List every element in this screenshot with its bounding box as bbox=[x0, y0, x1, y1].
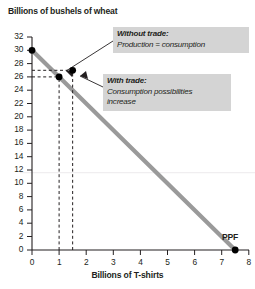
y-tick-label: 8 bbox=[5, 192, 23, 201]
y-tick-label: 16 bbox=[5, 138, 23, 147]
y-tick-label: 14 bbox=[5, 152, 23, 161]
y-tick-label: 26 bbox=[5, 72, 23, 81]
annotation-without-trade: Without trade: Production = consumption bbox=[113, 27, 249, 53]
annotation-with-trade-title: With trade: bbox=[107, 76, 227, 87]
dashed-guides bbox=[32, 70, 73, 250]
annotation-with-trade-body-line2: increase bbox=[107, 97, 227, 108]
y-axis-ticks bbox=[27, 37, 32, 250]
ppf-chart-figure: Billions of bushels of wheat bbox=[0, 0, 255, 289]
y-tick-label: 30 bbox=[5, 45, 23, 54]
plot-area: 32 30 28 26 24 22 20 18 16 14 12 10 8 6 … bbox=[0, 0, 255, 289]
x-axis-title: Billions of T-shirts bbox=[0, 270, 255, 280]
y-tick-label: 0 bbox=[5, 245, 23, 254]
point-ppf-x-intercept bbox=[232, 247, 239, 254]
point-ppf-y-intercept bbox=[29, 47, 36, 54]
annotation-with-trade-body-line1: Consumption possibilities bbox=[107, 87, 227, 98]
annotation-without-trade-body: Production = consumption bbox=[117, 40, 245, 51]
y-tick-label: 18 bbox=[5, 125, 23, 134]
x-tick-label: 2 bbox=[79, 257, 93, 267]
y-tick-label: 28 bbox=[5, 59, 23, 68]
y-tick-label: 2 bbox=[5, 232, 23, 241]
y-tick-label: 4 bbox=[5, 218, 23, 227]
y-tick-label: 10 bbox=[5, 178, 23, 187]
y-tick-label: 22 bbox=[5, 99, 23, 108]
y-tick-label: 12 bbox=[5, 165, 23, 174]
x-tick-label: 4 bbox=[133, 257, 147, 267]
y-tick-label: 24 bbox=[5, 85, 23, 94]
y-tick-label: 6 bbox=[5, 205, 23, 214]
point-with-trade bbox=[69, 67, 76, 74]
x-tick-label: 1 bbox=[52, 257, 66, 267]
x-tick-label: 7 bbox=[215, 257, 229, 267]
x-tick-label: 5 bbox=[161, 257, 175, 267]
point-without-trade bbox=[56, 74, 63, 81]
y-tick-label: 32 bbox=[5, 32, 23, 41]
x-axis-ticks bbox=[32, 250, 249, 255]
x-tick-label: 3 bbox=[106, 257, 120, 267]
ppf-series-label: PPF bbox=[222, 232, 238, 242]
y-tick-label: 20 bbox=[5, 112, 23, 121]
x-tick-label: 8 bbox=[242, 257, 255, 267]
annotation-without-trade-title: Without trade: bbox=[117, 29, 245, 40]
x-tick-label: 0 bbox=[25, 257, 39, 267]
x-tick-label: 6 bbox=[188, 257, 202, 267]
annotation-with-trade: With trade: Consumption possibilities in… bbox=[103, 74, 231, 111]
